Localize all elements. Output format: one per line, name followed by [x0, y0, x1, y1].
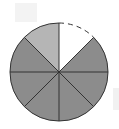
fraction-circle — [0, 0, 119, 129]
divider-lines — [10, 23, 108, 121]
